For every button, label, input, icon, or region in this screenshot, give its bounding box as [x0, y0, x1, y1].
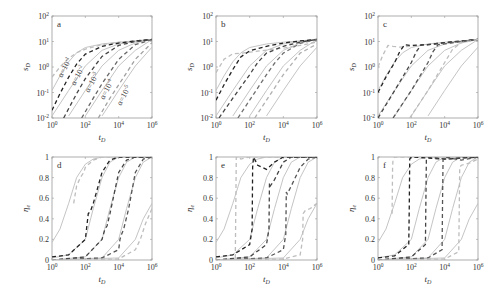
- y-tick-label: 10-1: [36, 88, 49, 98]
- series-group: [52, 157, 152, 260]
- y-tick-label: 0.2: [365, 235, 375, 244]
- panel-letter: f: [383, 160, 386, 170]
- alpha-annotation: α=10-4: [97, 77, 116, 101]
- alpha-annotation: α=10-3: [82, 70, 101, 94]
- panel-letter: e: [221, 160, 225, 170]
- series-line: [235, 157, 317, 258]
- x-axis-label: tD: [425, 132, 433, 143]
- series-line: [267, 47, 318, 116]
- y-tick-label: 102: [364, 11, 375, 21]
- y-tick-label: 101: [38, 37, 49, 47]
- x-tick-label: 106: [312, 120, 323, 130]
- series-line: [216, 203, 317, 260]
- y-tick-label: 0.2: [39, 235, 49, 244]
- y-tick-label: 10-1: [362, 88, 375, 98]
- series-line: [216, 203, 317, 260]
- series-line: [250, 39, 317, 116]
- axes-frame: [216, 16, 317, 118]
- y-tick-label: 0.8: [39, 174, 49, 183]
- y-tick-label: 0: [371, 256, 375, 265]
- x-tick-label: 104: [439, 262, 450, 272]
- x-axis-label: tD: [99, 132, 107, 143]
- panel-c: 10010210410610-210-1100101102tDsDc: [346, 11, 484, 143]
- y-tick-label: 1: [371, 153, 375, 162]
- x-tick-label: 106: [473, 262, 484, 272]
- y-tick-label: 0.4: [39, 215, 49, 224]
- panel-b: 10010210410610-210-1100101102tDsDb: [184, 11, 323, 143]
- y-tick-label: 102: [202, 11, 213, 21]
- y-tick-label: 101: [364, 37, 375, 47]
- series-group: [216, 39, 317, 118]
- axes-frame: [378, 16, 478, 118]
- series-line: [52, 39, 152, 116]
- series-group: [378, 157, 478, 260]
- x-tick-label: 106: [147, 262, 158, 272]
- y-tick-label: 0.4: [203, 215, 213, 224]
- y-tick-label: 10-1: [200, 88, 213, 98]
- y-axis-label: ηe: [184, 205, 195, 212]
- y-tick-label: 100: [38, 62, 49, 72]
- y-axis-label: sD: [20, 62, 31, 71]
- x-axis-label: tD: [99, 274, 107, 285]
- x-tick-label: 106: [147, 120, 158, 130]
- y-tick-label: 0.4: [365, 215, 375, 224]
- series-group: [52, 39, 152, 118]
- y-tick-label: 0.6: [203, 194, 213, 203]
- y-tick-label: 0: [45, 256, 49, 265]
- panel-letter: d: [57, 160, 62, 170]
- series-group: [378, 39, 478, 118]
- x-tick-label: 100: [373, 120, 384, 130]
- y-axis-label: sD: [346, 62, 357, 71]
- x-tick-label: 104: [113, 262, 124, 272]
- x-tick-label: 104: [439, 120, 450, 130]
- y-axis-label: sD: [184, 62, 195, 71]
- series-line: [219, 39, 317, 118]
- x-tick-label: 102: [80, 120, 91, 130]
- x-axis-label: tD: [263, 132, 271, 143]
- x-tick-label: 100: [211, 120, 222, 130]
- y-axis-label: ηe: [346, 205, 357, 212]
- panel-letter: a: [57, 19, 61, 29]
- panel-letter: b: [221, 19, 226, 29]
- series-line: [378, 39, 478, 118]
- panel-f: 10010210410600.20.40.60.81tDηef: [346, 153, 484, 285]
- figure: 10010210410610-210-1100101102tDsDaα=10-1…: [0, 0, 496, 301]
- y-axis-label: ηe: [20, 205, 31, 212]
- x-tick-label: 100: [47, 120, 58, 130]
- y-tick-label: 101: [202, 37, 213, 47]
- x-tick-label: 102: [406, 262, 417, 272]
- series-line: [238, 39, 317, 118]
- y-tick-label: 100: [202, 62, 213, 72]
- y-tick-label: 0.8: [365, 174, 375, 183]
- x-tick-label: 104: [278, 262, 289, 272]
- y-tick-label: 102: [38, 11, 49, 21]
- y-tick-label: 0.2: [203, 235, 213, 244]
- panel-letter: c: [383, 19, 387, 29]
- y-tick-label: 0.6: [39, 194, 49, 203]
- panel-e: 10010210410600.20.40.60.81tDηee: [184, 153, 323, 285]
- y-tick-label: 0: [209, 256, 213, 265]
- y-tick-label: 0.6: [365, 194, 375, 203]
- y-tick-label: 100: [364, 62, 375, 72]
- x-tick-label: 106: [312, 262, 323, 272]
- y-tick-label: 1: [209, 153, 213, 162]
- series-line: [392, 157, 478, 214]
- x-axis-label: tD: [425, 274, 433, 285]
- series-line: [52, 203, 152, 260]
- x-tick-label: 104: [278, 120, 289, 130]
- series-line: [378, 203, 478, 260]
- x-tick-label: 102: [80, 262, 91, 272]
- x-axis-label: tD: [263, 274, 271, 285]
- panel-a: 10010210410610-210-1100101102tDsDaα=10-1…: [20, 11, 158, 143]
- panel-d: 10010210410600.20.40.60.81tDηed: [20, 153, 158, 285]
- series-line: [378, 39, 478, 116]
- series-line: [216, 39, 317, 116]
- series-line: [428, 47, 478, 116]
- x-tick-label: 104: [113, 120, 124, 130]
- y-tick-label: 0.8: [203, 174, 213, 183]
- x-tick-label: 102: [406, 120, 417, 130]
- series-line: [216, 39, 317, 90]
- x-tick-label: 102: [244, 262, 255, 272]
- alpha-annotation: α=10-2: [68, 63, 87, 87]
- x-tick-label: 106: [473, 120, 484, 130]
